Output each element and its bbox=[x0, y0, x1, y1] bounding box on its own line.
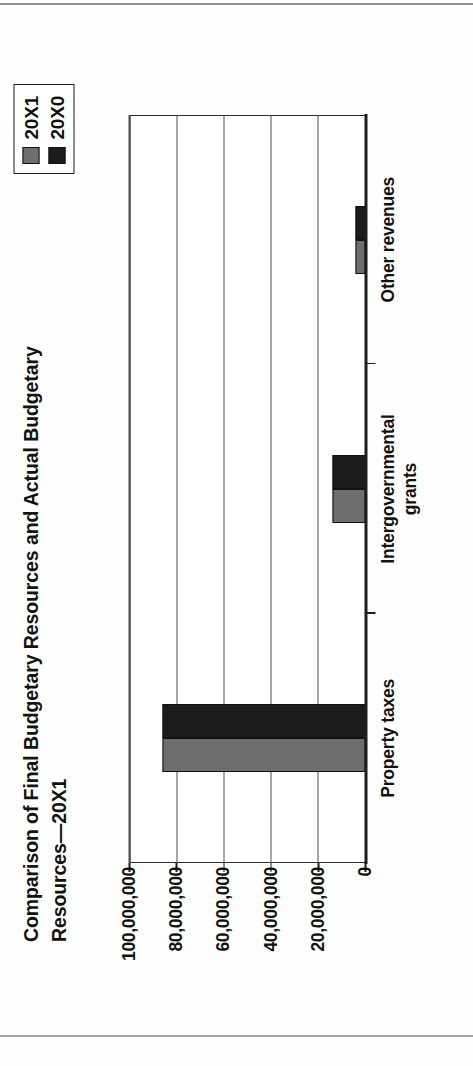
category-label-line: Property taxes bbox=[377, 679, 397, 798]
scanned-page: Comparison of Final Budgetary Resources … bbox=[0, 0, 473, 1066]
bar-series-layer bbox=[129, 115, 365, 863]
category-label-line: grants bbox=[399, 364, 421, 613]
bar-20x0 bbox=[162, 704, 365, 738]
bar-group bbox=[129, 115, 365, 364]
bar-chart: Comparison of Final Budgetary Resources … bbox=[9, 28, 464, 1038]
legend-label-20x0: 20X0 bbox=[47, 96, 66, 140]
legend-entry-20x0: 20X0 bbox=[47, 96, 66, 164]
bar-20x1 bbox=[162, 738, 365, 772]
plot-area: 020,000,00040,000,00060,000,00080,000,00… bbox=[129, 115, 365, 863]
y-axis-tick-label: 80,000,000 bbox=[166, 867, 187, 952]
chart-title-line-1: Comparison of Final Budgetary Resources … bbox=[19, 346, 41, 942]
bar-20x0 bbox=[332, 455, 366, 489]
y-axis-tick-label: 60,000,000 bbox=[213, 867, 234, 952]
legend-swatch-icon-20x0 bbox=[48, 147, 65, 164]
y-axis-tick-label: 20,000,000 bbox=[307, 867, 328, 952]
category-axis-label: Other revenues bbox=[377, 115, 399, 364]
chart-stage-wrapper: Comparison of Final Budgetary Resources … bbox=[0, 0, 473, 1066]
legend-entry-20x1: 20X1 bbox=[21, 96, 40, 164]
category-axis-tick bbox=[366, 363, 375, 365]
category-axis-label: Intergovernmentalgrants bbox=[377, 364, 421, 613]
bar-20x1 bbox=[332, 489, 366, 523]
y-axis-tick-label: 40,000,000 bbox=[260, 867, 281, 952]
chart-legend: 20X1 20X0 bbox=[13, 84, 74, 174]
legend-swatch-icon-20x1 bbox=[22, 147, 39, 164]
y-axis-tick-label: 0 bbox=[355, 867, 376, 876]
legend-label-20x1: 20X1 bbox=[21, 96, 40, 140]
y-axis-tick-label: 100,000,000 bbox=[119, 867, 140, 961]
bar-group bbox=[129, 614, 365, 863]
category-axis-label: Property taxes bbox=[377, 614, 399, 863]
x-axis-baseline bbox=[364, 114, 367, 864]
category-label-line: Other revenues bbox=[377, 177, 397, 303]
bar-group bbox=[129, 364, 365, 613]
category-axis-tick bbox=[366, 612, 375, 614]
category-label-line: Intergovernmental bbox=[377, 414, 397, 563]
chart-title: Comparison of Final Budgetary Resources … bbox=[17, 28, 72, 1038]
